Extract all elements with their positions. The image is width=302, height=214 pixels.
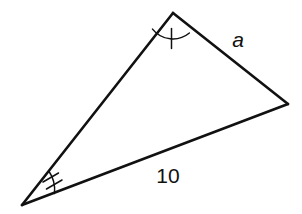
bottom-left-angle-arc [49,171,55,194]
triangle-diagram-canvas: a 10 [0,0,302,214]
triangle-side-a-segment [173,13,288,104]
triangle-figure: a 10 [0,0,302,214]
side-label-a: a [232,28,244,51]
side-label-base: 10 [156,164,179,187]
